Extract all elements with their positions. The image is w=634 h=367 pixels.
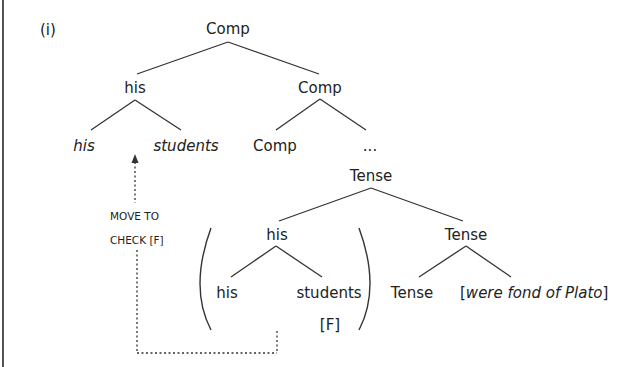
node-ellipsis: ... [363, 137, 377, 155]
node-tense-bar: Tense [444, 226, 487, 244]
left-parenthesis [200, 228, 211, 330]
edge-subj-students [276, 246, 322, 277]
node-comp-bar: Comp [298, 79, 342, 97]
edge-root-comp [228, 42, 319, 74]
move-label-line1: MOVE TO [110, 210, 159, 222]
node-students-lower: students [296, 284, 361, 302]
node-tense-head: Tense [390, 284, 433, 302]
right-parenthesis [359, 228, 370, 330]
edge-his-students [135, 100, 181, 130]
example-label: (i) [40, 21, 56, 39]
edge-his-his [91, 100, 135, 130]
syntax-tree-diagram: (i) Comp his Comp his students Comp ... … [0, 0, 634, 367]
arrowhead-icon [132, 154, 139, 163]
node-tense-top: Tense [349, 167, 392, 185]
edge-tense-tense [371, 188, 463, 221]
node-his-det: his [73, 137, 95, 155]
edge-root-his [137, 42, 228, 74]
move-label-line2: CHECK [F] [110, 234, 164, 246]
node-predicate: [were fond of Plato] [460, 284, 608, 302]
feature-label: [F] [320, 316, 340, 334]
edge-comp-dots [320, 99, 366, 130]
node-comp-root: Comp [206, 20, 250, 38]
node-students-noun: students [153, 137, 218, 155]
node-comp-head: Comp [253, 137, 297, 155]
edge-subj-his [231, 246, 276, 277]
edge-tbar-vp [466, 246, 511, 277]
movement-arrow [132, 154, 278, 353]
edge-tense-his [279, 188, 371, 221]
node-his-lower: his [216, 284, 238, 302]
edge-comp-comp [276, 99, 320, 130]
tree-svg: (i) Comp his Comp his students Comp ... … [0, 0, 634, 367]
node-his-subject: his [266, 226, 288, 244]
edge-tbar-tense [419, 246, 466, 277]
node-his-spec: his [124, 79, 146, 97]
